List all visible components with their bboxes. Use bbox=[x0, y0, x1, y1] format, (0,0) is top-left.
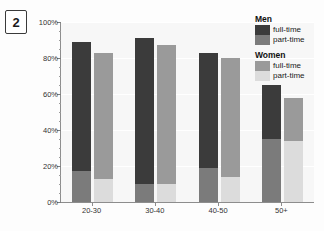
y-axis-tick-label: 40% bbox=[18, 126, 58, 135]
y-axis-minor-tick bbox=[59, 148, 62, 149]
legend-swatch-icon bbox=[255, 25, 270, 35]
y-axis-minor-tick bbox=[59, 76, 62, 77]
legend-entry-label: full-time bbox=[273, 61, 321, 71]
legend-swatch-icon bbox=[255, 35, 270, 45]
legend-swatch-stack bbox=[255, 61, 270, 81]
y-axis-minor-tick bbox=[59, 31, 62, 32]
y-axis-tick-label: 100% bbox=[18, 18, 58, 27]
bar-women-30-40 bbox=[157, 45, 176, 202]
y-axis-minor-tick bbox=[59, 184, 62, 185]
x-axis-tick-label: 40-50 bbox=[209, 206, 228, 215]
bar-men-30-40 bbox=[135, 38, 154, 202]
chart-figure: 2 Menfull-timepart-timeWomenfull-timepar… bbox=[0, 0, 324, 231]
bar-women-40-50 bbox=[221, 58, 240, 202]
bar-segment-men-full-time bbox=[199, 53, 218, 168]
x-axis-tick-label: 50+ bbox=[275, 206, 288, 215]
legend-block: full-timepart-time bbox=[243, 61, 321, 81]
chart-legend: Menfull-timepart-timeWomenfull-timepart-… bbox=[243, 14, 321, 86]
bar-segment-women-part-time bbox=[94, 179, 113, 202]
bar-segment-women-part-time bbox=[157, 184, 176, 202]
bar-men-40-50 bbox=[199, 53, 218, 202]
bar-segment-women-full-time bbox=[157, 45, 176, 184]
legend-swatch-icon bbox=[255, 61, 270, 71]
legend-entry-label: full-time bbox=[273, 25, 321, 35]
bar-segment-men-part-time bbox=[199, 168, 218, 202]
y-axis-minor-tick bbox=[59, 193, 62, 194]
y-axis-minor-tick bbox=[59, 103, 62, 104]
legend-label-stack: full-timepart-time bbox=[273, 25, 321, 45]
bar-segment-men-part-time bbox=[72, 171, 91, 202]
legend-group-title: Women bbox=[243, 50, 321, 60]
y-axis-minor-tick bbox=[59, 157, 62, 158]
legend-label-stack: full-timepart-time bbox=[273, 61, 321, 81]
bar-segment-men-full-time bbox=[262, 85, 281, 139]
bar-women-50+ bbox=[284, 98, 303, 202]
legend-group-title: Men bbox=[243, 14, 321, 24]
legend-swatch-icon bbox=[255, 71, 270, 81]
bar-women-20-30 bbox=[94, 53, 113, 202]
y-axis-minor-tick bbox=[59, 85, 62, 86]
legend-entry-label: part-time bbox=[273, 35, 321, 45]
y-axis-minor-tick bbox=[59, 40, 62, 41]
bar-segment-women-part-time bbox=[284, 141, 303, 202]
y-axis-minor-tick bbox=[59, 175, 62, 176]
y-axis-tick-label: 80% bbox=[18, 54, 58, 63]
bar-segment-women-part-time bbox=[221, 177, 240, 202]
bar-segment-women-full-time bbox=[284, 98, 303, 141]
y-axis-minor-tick bbox=[59, 49, 62, 50]
bar-segment-women-full-time bbox=[221, 58, 240, 177]
bar-segment-men-full-time bbox=[72, 42, 91, 172]
bar-segment-men-full-time bbox=[135, 38, 154, 184]
bar-segment-women-full-time bbox=[94, 53, 113, 179]
legend-block: full-timepart-time bbox=[243, 25, 321, 45]
x-axis-tick-label: 20-30 bbox=[82, 206, 101, 215]
y-axis-tick-label: 20% bbox=[18, 162, 58, 171]
y-axis-minor-tick bbox=[59, 121, 62, 122]
y-axis-minor-tick bbox=[59, 67, 62, 68]
bar-men-20-30 bbox=[72, 42, 91, 202]
y-axis-minor-tick bbox=[59, 112, 62, 113]
legend-entry-label: part-time bbox=[273, 71, 321, 81]
legend-swatch-stack bbox=[255, 25, 270, 45]
y-axis-tick-label: 60% bbox=[18, 90, 58, 99]
bar-men-50+ bbox=[262, 85, 281, 202]
y-axis-tick-label: 0% bbox=[18, 198, 58, 207]
y-axis-minor-tick bbox=[59, 139, 62, 140]
x-axis-tick-label: 30-40 bbox=[145, 206, 164, 215]
bar-segment-men-part-time bbox=[262, 139, 281, 202]
bar-segment-men-part-time bbox=[135, 184, 154, 202]
